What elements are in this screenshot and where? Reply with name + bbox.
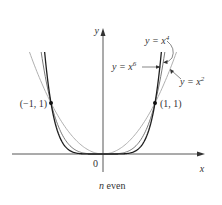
caption: n even xyxy=(99,180,125,191)
point-right-label: (1, 1) xyxy=(160,98,182,110)
origin-label: 0 xyxy=(93,158,98,169)
chart-figure: y x 0 (−1, 1) (1, 1) y = x4 y = x6 y = x… xyxy=(0,0,222,205)
label-x4: y = x4 xyxy=(144,34,170,46)
y-axis-label: y xyxy=(94,25,100,36)
label-x6: y = x6 xyxy=(111,60,137,72)
x4-pointer-line xyxy=(165,41,173,62)
x2-pointer-arrow-icon xyxy=(170,69,174,74)
x-axis-arrow-icon xyxy=(197,152,205,157)
chart-canvas: y x 0 (−1, 1) (1, 1) y = x4 y = x6 y = x… xyxy=(0,0,222,205)
point-1-1 xyxy=(153,101,157,105)
x-axis-label: x xyxy=(199,163,205,174)
point-left-label: (−1, 1) xyxy=(20,98,47,110)
y-axis-arrow-icon xyxy=(101,28,106,36)
point-neg1-1 xyxy=(49,101,53,105)
label-x2: y = x2 xyxy=(179,75,205,87)
